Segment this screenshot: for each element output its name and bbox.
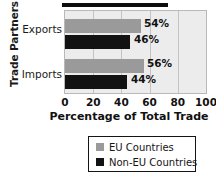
bar-exports-non-eu bbox=[65, 35, 130, 49]
chart-legend: EU Countries Non-EU Countries bbox=[88, 136, 196, 172]
chart-figure: Trade Partners Exports Imports 54% 46% 5… bbox=[0, 0, 216, 176]
legend-item-eu-countries: EU Countries bbox=[96, 140, 195, 154]
x-tick-label-100: 100 bbox=[195, 96, 216, 108]
value-label-exports-non-eu: 46% bbox=[134, 33, 159, 45]
legend-item-non-eu-countries: Non-EU Countries bbox=[96, 155, 195, 169]
x-tick-label-60: 60 bbox=[142, 96, 157, 108]
category-label-exports: Exports bbox=[16, 23, 62, 35]
plot-area: 54% 46% 56% 44% bbox=[64, 10, 207, 94]
legend-label-non-eu-countries: Non-EU Countries bbox=[109, 157, 197, 168]
top-divider-rule bbox=[62, 3, 168, 7]
x-tick-label-80: 80 bbox=[170, 96, 185, 108]
value-label-imports-eu: 56% bbox=[147, 57, 172, 69]
bar-imports-eu bbox=[65, 59, 144, 73]
x-axis-title: Percentage of Total Trade bbox=[42, 110, 216, 123]
x-tick-label-40: 40 bbox=[114, 96, 129, 108]
legend-swatch-eu-icon bbox=[96, 143, 104, 151]
x-tick-label-20: 20 bbox=[86, 96, 101, 108]
value-label-exports-eu: 54% bbox=[144, 17, 169, 29]
gridline-80 bbox=[178, 11, 179, 93]
bar-exports-eu bbox=[65, 19, 141, 33]
value-label-imports-non-eu: 44% bbox=[131, 73, 156, 85]
legend-swatch-non-eu-icon bbox=[96, 158, 104, 166]
bar-imports-non-eu bbox=[65, 75, 127, 89]
x-tick-label-0: 0 bbox=[61, 96, 68, 108]
category-label-imports: Imports bbox=[16, 68, 62, 80]
legend-label-eu-countries: EU Countries bbox=[109, 142, 174, 153]
